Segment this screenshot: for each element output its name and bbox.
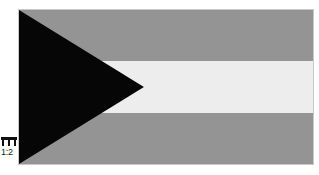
hoist-triangle	[19, 10, 313, 164]
flag-figure	[19, 10, 313, 164]
image-canvas: 1:2	[0, 0, 319, 175]
ratio-label: 1:2	[1, 148, 13, 157]
ratio-caption: 1:2	[1, 137, 21, 157]
flag-proportion-icon	[1, 137, 17, 146]
